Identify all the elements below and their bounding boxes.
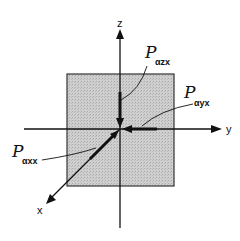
stress-component-diagram: z y x P αzx P αyx P αxx — [0, 0, 240, 241]
x-axis-arrowhead-icon — [46, 194, 56, 204]
y-axis-arrowhead-icon — [211, 125, 222, 133]
pazx-subscript: αzx — [155, 57, 170, 67]
payx-subscript: αyx — [194, 98, 210, 108]
label-pazx: P αzx — [144, 42, 170, 67]
z-axis-label: z — [117, 17, 123, 29]
label-payx: P αyx — [183, 82, 210, 108]
label-paxx: P αxx — [11, 141, 38, 166]
y-axis-label: y — [226, 123, 232, 135]
x-axis-label: x — [37, 204, 43, 216]
paxx-subscript: αxx — [22, 156, 38, 166]
z-axis-arrowhead-icon — [116, 29, 124, 39]
